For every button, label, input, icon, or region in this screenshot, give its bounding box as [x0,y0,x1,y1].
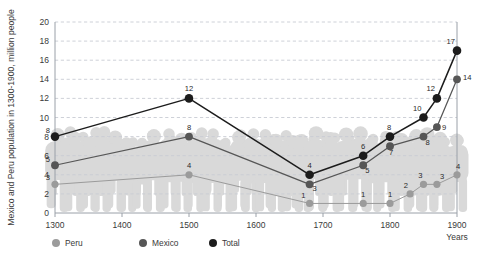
data-point-label: 17 [447,37,455,46]
data-point-label: 3 [46,173,50,182]
silhouette-head [433,132,447,146]
silhouette-head [269,134,282,147]
legend-item-mexico[interactable]: Mexico [139,238,179,248]
data-point-label: 9 [442,123,446,132]
silhouette-leg [376,178,384,209]
silhouette-leg [202,179,210,212]
x-tick-label: 1700 [314,220,333,230]
data-point-label: 12 [426,84,434,93]
legend-label-mexico: Mexico [152,238,179,248]
data-point [453,171,460,178]
y-tick-label: 10 [40,113,50,123]
data-point [305,171,314,180]
data-point-label: 1 [361,190,365,199]
data-point [386,132,395,141]
silhouette-leg [133,180,141,208]
silhouette-leg [446,178,454,212]
data-point [306,200,313,207]
data-point-label: 8 [187,123,191,132]
x-tick-label: 1400 [113,220,132,230]
silhouette-head [108,130,122,144]
data-point [420,181,427,188]
data-point-label: 3 [418,171,422,180]
data-point-label: 1 [388,190,392,199]
data-point [51,132,60,141]
silhouette-head [339,127,353,141]
data-point-label: 8 [46,126,50,135]
silhouette-head [67,131,81,145]
silhouette-leg [256,179,264,212]
data-point-label: 5 [365,166,369,175]
silhouette-head [324,132,338,146]
data-point [433,181,440,188]
data-point [185,133,193,141]
crowd-silhouette-background [45,126,468,212]
silhouette-leg [459,178,467,212]
silhouette-head [365,137,378,150]
data-point-label: 8 [387,123,391,132]
data-point [359,151,368,160]
data-point [453,46,462,55]
data-point-label: 7 [389,148,393,157]
data-point-label: 14 [463,73,471,82]
x-tick-label: 1800 [381,220,400,230]
y-tick-label: 12 [40,93,50,103]
silhouette-leg [292,178,300,209]
silhouette-leg [160,178,168,209]
data-point-label: 10 [413,104,421,113]
legend-marker-total [209,239,217,247]
data-point [51,181,58,188]
silhouette-leg [214,180,222,209]
data-point [419,113,428,122]
data-point [386,200,393,207]
legend-label-peru: Peru [65,238,83,248]
data-point [453,75,461,83]
chart-canvas: 0246810121416182013001400150016001700180… [0,0,487,262]
y-tick-label: 18 [40,36,50,46]
chart-legend: PeruMexicoTotal [52,238,240,248]
y-tick-label: 16 [40,55,50,65]
silhouette-head [83,137,96,150]
x-tick-label: 1600 [247,220,266,230]
data-point-label: 2 [404,181,408,190]
data-point-label: 12 [185,84,193,93]
data-point [185,171,192,178]
data-point-label: 8 [426,138,430,147]
x-axis-title: Years [446,232,467,242]
legend-item-peru[interactable]: Peru [52,238,83,248]
data-point-label: 4 [456,162,460,171]
silhouette-head [353,126,368,141]
population-line-chart: 0246810121416182013001400150016001700180… [0,0,487,262]
data-point [407,190,414,197]
silhouette-leg [335,175,344,211]
x-tick-label: 1300 [46,220,65,230]
data-point [51,161,59,169]
data-point-label: 3 [313,184,317,193]
data-point-label: 5 [46,155,50,164]
data-point-label: 1 [301,191,305,200]
data-point-label: 3 [440,172,444,181]
y-tick-label: 0 [44,208,49,218]
y-tick-label: 14 [40,74,50,84]
data-point-label: 4 [187,161,191,170]
legend-label-total: Total [222,238,240,248]
silhouette-leg [117,179,125,211]
legend-marker-peru [52,239,60,247]
silhouette-leg [90,178,98,211]
silhouette-leg [283,178,291,211]
y-tick-label: 2 [44,189,49,199]
data-point-label: 6 [361,142,365,151]
legend-item-total[interactable]: Total [209,238,240,248]
silhouette-head [120,137,133,150]
y-axis-title: Mexico and Peru population in 1300-1900,… [6,9,16,226]
y-tick-label: 20 [40,17,50,27]
data-point [185,94,194,103]
silhouette-head [309,126,324,141]
x-tick-label: 1500 [180,220,199,230]
data-point [360,200,367,207]
data-point [433,94,442,103]
legend-marker-mexico [139,239,147,247]
x-tick-label: 1900 [448,220,467,230]
data-point-label: 4 [307,161,311,170]
data-point [433,123,441,131]
